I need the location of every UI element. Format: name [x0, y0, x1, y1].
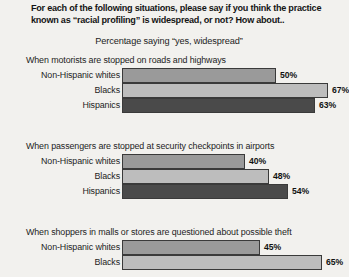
bar-hispanics — [122, 98, 315, 113]
row-label: Non-Hispanic whites — [41, 156, 120, 167]
bar-value-label: 54% — [292, 186, 309, 197]
bar-value-label: 50% — [280, 70, 297, 81]
table-row: Hispanics 63% — [0, 98, 338, 113]
row-label: Blacks — [94, 171, 120, 182]
header-line-1: For each of the following situations, pl… — [31, 2, 321, 14]
table-row: Non-Hispanic whites 50% — [0, 68, 338, 83]
row-label: Non-Hispanic whites — [41, 242, 120, 253]
chart-subtitle: Percentage saying “yes, widespread” — [0, 35, 338, 47]
table-row: Non-Hispanic whites 45% — [0, 240, 338, 255]
bar-value-label: 40% — [249, 156, 266, 167]
table-row: Non-Hispanic whites 40% — [0, 154, 338, 169]
bar-value-label: 65% — [326, 257, 343, 268]
bar-non-hispanic-whites — [122, 240, 260, 255]
group-heading: When motorists are stopped on roads and … — [26, 55, 226, 66]
header-line-2: known as “racial profiling” is widesprea… — [31, 14, 321, 26]
table-row: Blacks 65% — [0, 255, 338, 270]
bar-non-hispanic-whites — [122, 68, 276, 83]
group-heading: When passengers are stopped at security … — [26, 141, 274, 152]
bar-value-label: 63% — [319, 100, 336, 111]
row-label: Non-Hispanic whites — [41, 70, 120, 81]
bar-blacks — [122, 169, 269, 184]
bar-hispanics — [122, 184, 288, 199]
row-label: Blacks — [94, 257, 120, 268]
bar-value-label: 48% — [273, 171, 290, 182]
group-rows: Non-Hispanic whites 40% Blacks 48% Hispa… — [0, 154, 338, 199]
group-rows: Non-Hispanic whites 45% Blacks 65% — [0, 240, 338, 270]
bar-blacks — [122, 83, 328, 98]
row-label: Blacks — [94, 85, 120, 96]
chart-question-header: For each of the following situations, pl… — [31, 2, 321, 27]
row-label: Hispanics — [82, 186, 120, 197]
table-row: Hispanics 54% — [0, 184, 338, 199]
table-row: Blacks 48% — [0, 169, 338, 184]
row-label: Hispanics — [82, 100, 120, 111]
bar-blacks — [122, 255, 322, 270]
group-heading: When shoppers in malls or stores are que… — [26, 227, 292, 238]
group-rows: Non-Hispanic whites 50% Blacks 67% Hispa… — [0, 68, 338, 113]
bar-non-hispanic-whites — [122, 154, 245, 169]
table-row: Blacks 67% — [0, 83, 338, 98]
bar-value-label: 67% — [332, 85, 349, 96]
bar-value-label: 45% — [264, 242, 281, 253]
